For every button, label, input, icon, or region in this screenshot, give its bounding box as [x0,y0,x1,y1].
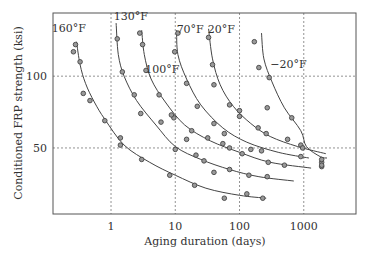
data-point [157,93,162,98]
curve-label: 20°F [208,23,235,36]
data-point [259,149,264,154]
data-point [184,81,189,86]
data-point [264,131,269,136]
data-point [173,147,178,152]
data-point [102,118,107,123]
data-point [118,136,123,141]
data-point [169,113,174,118]
data-point [266,160,271,165]
curves-layer [77,23,328,198]
data-point [195,104,200,109]
data-point [202,159,207,164]
data-point [227,103,232,108]
data-point [227,146,232,151]
data-point [265,105,270,110]
curve--20f [262,33,328,158]
data-point [257,65,262,70]
plot-frame [53,13,356,214]
curve-100f [142,30,311,168]
x-tick-label: 10 [168,220,182,233]
data-point [210,62,215,67]
data-point [260,196,265,201]
data-point [222,131,227,136]
data-point [245,192,250,197]
data-point [159,120,164,125]
y-axis-label: Conditioned FRP strength (ksi) [12,26,25,200]
data-point [252,39,257,44]
curve-label: 130°F [114,10,148,23]
x-tick-label: 1 [108,220,115,233]
data-point [132,93,137,98]
x-tick-label: 1000 [290,220,318,233]
data-point [172,49,177,54]
data-point [205,136,210,141]
data-point [240,151,245,156]
data-point [167,173,172,178]
data-point [118,143,123,148]
data-point [282,163,287,168]
data-point [139,157,144,162]
data-point [88,98,93,103]
data-point [212,82,217,87]
x-tick-label: 100 [229,220,250,233]
data-point [212,121,217,126]
data-point [300,146,305,151]
data-point [73,42,78,47]
data-point [256,126,261,131]
data-point [137,31,142,36]
labels-layer: 160°F130°F100°F70°F20°F−20°F [52,10,307,76]
curve-label: 160°F [52,22,86,35]
data-point [227,167,232,172]
chart: 160°F130°F100°F70°F20°F−20°F 11010010005… [0,0,372,258]
data-point [81,91,86,96]
data-point [71,49,76,54]
data-point [249,147,254,152]
data-point [319,157,324,162]
data-point [138,111,143,116]
data-point [237,108,242,113]
curve-label: 100°F [145,63,179,76]
grid-layer [53,13,356,214]
data-point [285,137,290,142]
curve-label: 70°F [177,23,204,36]
data-point [140,42,145,47]
points-layer [71,31,324,201]
data-point [192,183,197,188]
data-point [319,163,324,168]
curve-label: −20°F [270,58,307,71]
data-point [265,174,270,179]
y-tick-label: 100 [26,70,47,83]
data-point [247,173,252,178]
data-point [237,114,242,119]
data-point [189,128,194,133]
data-point [221,141,226,146]
data-point [299,154,304,159]
data-point [115,37,120,42]
x-axis-label: Aging duration (days) [143,235,265,248]
data-point [212,170,217,175]
y-tick-label: 50 [33,142,47,155]
data-point [289,116,294,121]
data-point [120,70,125,75]
data-point [194,153,199,158]
data-point [184,137,189,142]
data-point [78,60,83,65]
data-point [267,75,272,80]
data-point [222,196,227,201]
